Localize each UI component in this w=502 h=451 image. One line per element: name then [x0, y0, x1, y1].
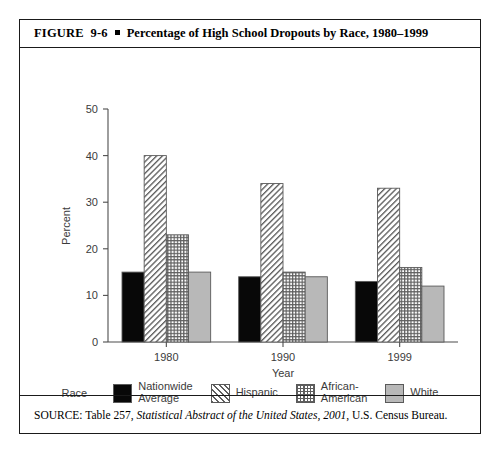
x-tick-label: 1990 — [271, 351, 295, 363]
figure-title-bar: FIGURE 9-6 Percentage of High School Dro… — [20, 20, 480, 48]
y-axis-title: Percent — [60, 207, 72, 245]
y-axis: 01020304050 Percent — [60, 103, 108, 348]
square-bullet-icon — [115, 30, 120, 35]
figure-source-bar: SOURCE: Table 257, Statistical Abstract … — [20, 395, 480, 433]
bar — [189, 272, 211, 342]
bar-chart-svg: 01020304050 Percent 198019901999 Year — [20, 48, 482, 396]
source-italic: Statistical Abstract of the United State… — [136, 409, 346, 421]
bar — [400, 267, 422, 342]
source-suffix: , U.S. Census Bureau. — [346, 409, 447, 421]
x-tick-label: 1999 — [387, 351, 411, 363]
bar — [305, 277, 327, 342]
y-tick-label: 50 — [86, 103, 98, 115]
bar — [261, 184, 283, 342]
source-note: SOURCE: Table 257, Statistical Abstract … — [34, 409, 447, 421]
source-prefix: SOURCE: Table 257, — [34, 409, 136, 421]
chart-plot-area: 01020304050 Percent 198019901999 Year — [20, 48, 480, 396]
bar — [166, 235, 188, 342]
y-tick-label: 0 — [92, 336, 98, 348]
bar — [378, 188, 400, 342]
bar — [144, 156, 166, 342]
bar — [122, 272, 144, 342]
figure-title: Percentage of High School Dropouts by Ra… — [127, 26, 429, 41]
y-tick-label: 40 — [86, 150, 98, 162]
figure-number: FIGURE 9-6 — [34, 26, 108, 41]
bar — [239, 277, 261, 342]
bar — [422, 286, 444, 342]
x-tick-label: 1980 — [154, 351, 178, 363]
figure-container: FIGURE 9-6 Percentage of High School Dro… — [19, 19, 481, 434]
y-tick-label: 20 — [86, 243, 98, 255]
y-tick-label: 30 — [86, 196, 98, 208]
x-axis: 198019901999 Year — [108, 342, 458, 379]
bar — [355, 281, 377, 342]
bar-series-group — [122, 156, 444, 342]
y-tick-label: 10 — [86, 289, 98, 301]
bar — [283, 272, 305, 342]
